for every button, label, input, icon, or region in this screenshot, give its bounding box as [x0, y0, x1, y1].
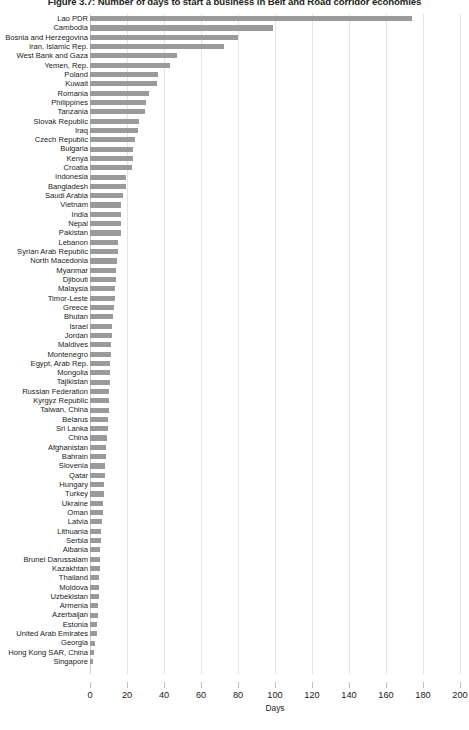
- bar: [90, 72, 158, 77]
- category-label: Slovak Republic: [34, 117, 88, 126]
- bar: [90, 147, 133, 152]
- bar-row: Greece: [0, 303, 469, 312]
- bar-row: Kyrgyz Republic: [0, 396, 469, 405]
- bar-row: Qatar: [0, 471, 469, 480]
- bar: [90, 137, 135, 142]
- axis-tick-label-160: 160: [366, 690, 406, 700]
- bar: [90, 435, 107, 440]
- bar-row: United Arab Emirates: [0, 629, 469, 638]
- category-label: Taiwan, China: [40, 405, 88, 414]
- x-axis-label: Days: [90, 703, 460, 713]
- category-label: Uzbekistan: [50, 592, 88, 601]
- bar: [90, 286, 115, 291]
- bar-row: Cambodia: [0, 23, 469, 32]
- bar-row: Albania: [0, 545, 469, 554]
- category-label: Kenya: [66, 154, 88, 163]
- bar-row: Timor-Leste: [0, 294, 469, 303]
- category-label: Afghanistan: [48, 443, 88, 452]
- category-label: Yemen, Rep.: [44, 61, 88, 70]
- bar-row: Slovenia: [0, 461, 469, 470]
- bar-row: West Bank and Gaza: [0, 51, 469, 60]
- bar-row: Yemen, Rep.: [0, 61, 469, 70]
- bar: [90, 361, 110, 366]
- bar: [90, 529, 101, 534]
- bar-row: Singapore: [0, 657, 469, 666]
- axis-tick-label-40: 40: [144, 690, 184, 700]
- bar-row: Tanzania: [0, 107, 469, 116]
- bar: [90, 35, 238, 40]
- bar: [90, 426, 108, 431]
- bar: [90, 398, 109, 403]
- bar: [90, 212, 121, 217]
- category-label: Slovenia: [59, 461, 88, 470]
- axis-tick-0: [90, 682, 91, 688]
- category-label: Lebanon: [58, 238, 88, 247]
- bar-row: Latvia: [0, 517, 469, 526]
- bar: [90, 193, 123, 198]
- bar: [90, 445, 106, 450]
- bar: [90, 258, 117, 263]
- bar-row: Turkey: [0, 489, 469, 498]
- category-label: Indonesia: [55, 172, 88, 181]
- bar: [90, 100, 146, 105]
- bar: [90, 53, 177, 58]
- bar-row: Slovak Republic: [0, 117, 469, 126]
- bar-row: Bhutan: [0, 312, 469, 321]
- category-label: Russian Federation: [22, 387, 88, 396]
- axis-tick-label-0: 0: [70, 690, 110, 700]
- bar-row: North Macedonia: [0, 256, 469, 265]
- bar: [90, 184, 126, 189]
- category-label: Moldova: [59, 583, 88, 592]
- category-label: Belarus: [62, 415, 88, 424]
- bar: [90, 370, 110, 375]
- category-label: Syrian Arab Republic: [17, 247, 88, 256]
- bar: [90, 63, 170, 68]
- axis-tick-20: [127, 682, 128, 688]
- category-label: Maldives: [58, 340, 88, 349]
- category-label: Lithuania: [57, 527, 88, 536]
- category-label: Bangladesh: [48, 182, 88, 191]
- bar: [90, 594, 99, 599]
- bar-row: Poland: [0, 70, 469, 79]
- bar: [90, 641, 95, 646]
- bar-row: Bangladesh: [0, 182, 469, 191]
- bar-row: Oman: [0, 508, 469, 517]
- category-label: Tanzania: [58, 107, 88, 116]
- bar: [90, 175, 126, 180]
- axis-tick-label-120: 120: [292, 690, 332, 700]
- category-label: Kyrgyz Republic: [33, 396, 88, 405]
- bar-row: Philippines: [0, 98, 469, 107]
- bar: [90, 249, 118, 254]
- bar-row: Hungary: [0, 480, 469, 489]
- bar-row: Kuwait: [0, 79, 469, 88]
- bar: [90, 659, 93, 664]
- bar-row: Estonia: [0, 620, 469, 629]
- category-label: Kuwait: [65, 79, 88, 88]
- bar: [90, 25, 273, 30]
- bar-row: Ukraine: [0, 499, 469, 508]
- bar-row: Thailand: [0, 573, 469, 582]
- bar-series: Lao PDRCambodiaBosnia and HerzegovinaIra…: [0, 14, 469, 674]
- bar-row: Hong Kong SAR, China: [0, 648, 469, 657]
- bar: [90, 109, 145, 114]
- bar: [90, 519, 102, 524]
- bar-row: Jordan: [0, 331, 469, 340]
- category-label: Turkey: [65, 489, 88, 498]
- bar-row: Malaysia: [0, 284, 469, 293]
- bar: [90, 81, 157, 86]
- bar: [90, 221, 121, 226]
- bar: [90, 454, 106, 459]
- bar-row: Lao PDR: [0, 14, 469, 23]
- category-label: Greece: [63, 303, 88, 312]
- category-label: Egypt, Arab Rep.: [31, 359, 88, 368]
- bar: [90, 128, 138, 133]
- bar: [90, 333, 112, 338]
- bar: [90, 119, 139, 124]
- bar-row: Djibouti: [0, 275, 469, 284]
- bar-row: Bulgaria: [0, 144, 469, 153]
- bar: [90, 16, 412, 21]
- axis-tick-40: [164, 682, 165, 688]
- category-label: Oman: [67, 508, 88, 517]
- category-label: Timor-Leste: [48, 294, 88, 303]
- bar: [90, 631, 97, 636]
